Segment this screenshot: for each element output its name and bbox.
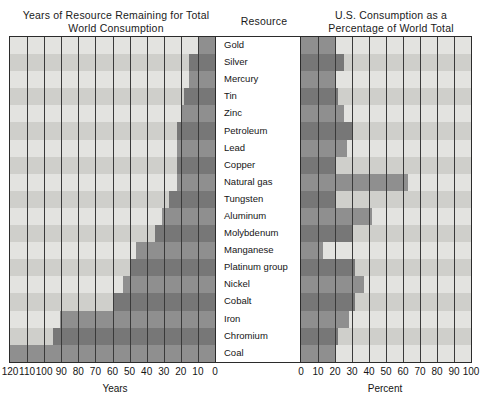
gridline xyxy=(130,37,131,362)
resource-label: Copper xyxy=(216,156,300,173)
axis-tick: 20 xyxy=(175,366,186,377)
axis-tick: 60 xyxy=(397,366,408,377)
right-chart-axis-label: Percent xyxy=(330,383,440,394)
axis-tick: 10 xyxy=(192,366,203,377)
resource-labels: GoldSilverMercuryTinZincPetroleumLeadCop… xyxy=(216,36,300,363)
axis-tick: 50 xyxy=(124,366,135,377)
gridline xyxy=(78,37,79,362)
axis-tick: 0 xyxy=(212,366,218,377)
right-chart-axis-ticks: 0102030405060708090100 xyxy=(290,366,481,380)
axis-tick: 100 xyxy=(36,366,53,377)
axis-tick: 60 xyxy=(107,366,118,377)
bar-tin xyxy=(184,88,215,105)
resource-label: Tin xyxy=(216,87,300,104)
axis-tick: 40 xyxy=(363,366,374,377)
bar-tungsten xyxy=(169,191,215,208)
bar-nickel xyxy=(301,276,364,293)
resource-label: Iron xyxy=(216,310,300,327)
gridline xyxy=(198,37,199,362)
left-chart-axis-label: Years xyxy=(60,383,170,394)
bar-silver xyxy=(189,54,215,71)
axis-tick: 30 xyxy=(346,366,357,377)
bar-platinum-group xyxy=(301,259,355,276)
axis-tick: 110 xyxy=(19,366,35,377)
bar-molybdenum xyxy=(301,225,352,242)
bar-mercury xyxy=(189,71,215,88)
axis-tick: 100 xyxy=(463,366,480,377)
bar-aluminum xyxy=(162,208,215,225)
gridline xyxy=(181,37,182,362)
left-chart-plot-area xyxy=(9,36,216,363)
bar-nickel xyxy=(123,276,215,293)
bar-gold xyxy=(198,37,215,54)
axis-tick: 90 xyxy=(56,366,67,377)
gridline xyxy=(95,37,96,362)
gridline xyxy=(420,37,421,362)
axis-tick: 10 xyxy=(312,366,323,377)
gridline xyxy=(454,37,455,362)
resource-label: Molybdenum xyxy=(216,224,300,241)
bar-iron xyxy=(60,311,215,328)
resource-label: Chromium xyxy=(216,327,300,344)
axis-tick: 30 xyxy=(158,366,169,377)
gridline xyxy=(147,37,148,362)
bar-lead xyxy=(301,140,347,157)
gridline xyxy=(335,37,336,362)
resource-label: Lead xyxy=(216,139,300,156)
gridline xyxy=(318,37,319,362)
bar-zinc xyxy=(301,105,344,122)
bar-silver xyxy=(301,54,344,71)
right-chart-plot-area xyxy=(300,36,472,363)
axis-tick: 80 xyxy=(431,366,442,377)
gridline xyxy=(369,37,370,362)
gridline xyxy=(437,37,438,362)
bar-tin xyxy=(301,88,338,105)
resource-label: Platinum group xyxy=(216,258,300,275)
resource-label: Natural gas xyxy=(216,173,300,190)
bar-petroleum xyxy=(301,122,352,139)
bar-chromium xyxy=(53,328,215,345)
bar-manganese xyxy=(136,242,215,259)
axis-tick: 0 xyxy=(298,366,304,377)
bar-copper xyxy=(177,157,215,174)
bar-petroleum xyxy=(177,122,215,139)
resource-label: Cobalt xyxy=(216,292,300,309)
resource-label: Gold xyxy=(216,36,300,53)
resource-label: Nickel xyxy=(216,275,300,292)
chart-figure: Years of Resource Remaining for Total Wo… xyxy=(0,0,481,408)
resource-label: Mercury xyxy=(216,70,300,87)
bar-iron xyxy=(301,311,349,328)
bar-platinum-group xyxy=(130,259,215,276)
resource-label: Silver xyxy=(216,53,300,70)
left-chart-title: Years of Resource Remaining for Total Wo… xyxy=(16,9,216,34)
axis-tick: 40 xyxy=(141,366,152,377)
axis-tick: 20 xyxy=(329,366,340,377)
axis-tick: 90 xyxy=(448,366,459,377)
resource-label: Zinc xyxy=(216,104,300,121)
left-chart-axis-ticks: 1201101009080706050403020100 xyxy=(0,366,230,380)
axis-tick: 120 xyxy=(2,366,19,377)
gridline xyxy=(164,37,165,362)
bar-natural-gas xyxy=(177,174,215,191)
resource-column-title: Resource xyxy=(228,15,300,28)
gridline xyxy=(352,37,353,362)
bar-lead xyxy=(177,140,215,157)
resource-label: Aluminum xyxy=(216,207,300,224)
right-chart-title: U.S. Consumption as a Percentage of Worl… xyxy=(306,9,476,34)
resource-label: Petroleum xyxy=(216,121,300,138)
axis-tick: 80 xyxy=(73,366,84,377)
gridline xyxy=(113,37,114,362)
gridline xyxy=(61,37,62,362)
bar-chromium xyxy=(301,328,338,345)
gridline xyxy=(386,37,387,362)
resource-label: Manganese xyxy=(216,241,300,258)
bar-manganese xyxy=(301,242,323,259)
bar-aluminum xyxy=(301,208,372,225)
axis-tick: 70 xyxy=(90,366,101,377)
resource-label: Tungsten xyxy=(216,190,300,207)
gridline xyxy=(403,37,404,362)
axis-tick: 50 xyxy=(380,366,391,377)
resource-label: Coal xyxy=(216,344,300,361)
gridline xyxy=(27,37,28,362)
axis-tick: 70 xyxy=(414,366,425,377)
